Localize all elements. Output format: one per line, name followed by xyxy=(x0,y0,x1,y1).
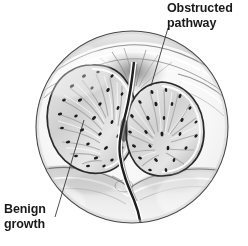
illustration-page: Obstructed pathway Benign growth xyxy=(0,0,248,246)
label-obstructed-pathway: Obstructed pathway xyxy=(167,1,233,30)
label-benign-growth: Benign growth xyxy=(4,202,46,231)
vignette-group xyxy=(18,20,244,240)
